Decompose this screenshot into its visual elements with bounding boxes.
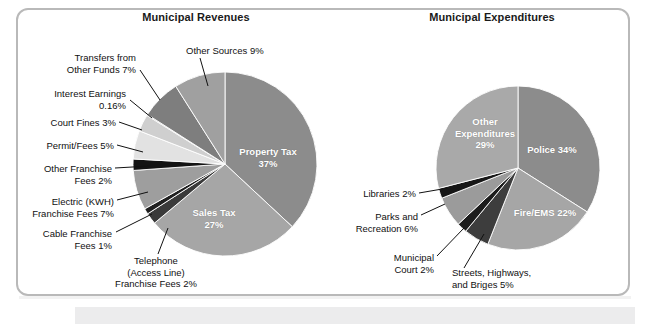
pie-callout-label: Transfers from Other Funds 7%: [18, 52, 136, 75]
pie-callout-label: Cable Franchise Fees 1%: [4, 228, 112, 251]
expenditures-pie: [436, 86, 600, 250]
pie-callout-label: Parks and Recreation 6%: [332, 211, 418, 234]
callout-leader-line: [140, 70, 160, 100]
pie-callout-label: Municipal Court 2%: [362, 252, 434, 275]
pie-callout-label: Electric (KWH) Franchise Fees 7%: [2, 196, 114, 219]
pie-callout-label: Permit/Fees 5%: [4, 140, 114, 152]
pie-callout-label: Telephone (Access Line) Franchise Fees 2…: [96, 255, 216, 290]
callout-leader-line: [437, 228, 464, 256]
callout-leader-line: [130, 100, 152, 118]
pie-callout-label: Other Franchise Fees 2%: [4, 163, 112, 186]
pie-callout-label: Court Fines 3%: [8, 117, 116, 129]
pie-callout-label: Other Sources 9%: [186, 45, 306, 57]
callout-leader-line: [116, 214, 152, 232]
callout-leader-line: [464, 234, 484, 268]
chart-page: Municipal Revenues Municipal Expenditure…: [0, 0, 649, 324]
pie-slice-label: Fire/EMS 22%: [485, 207, 605, 219]
pie-callout-label: Libraries 2%: [338, 188, 416, 200]
pie-callout-label: Streets, Highways, and Briges 5%: [452, 267, 574, 290]
pie-slice-label: Sales Tax 27%: [154, 207, 274, 230]
pie-slice-label: Property Tax 37%: [208, 146, 328, 169]
callout-leader-line: [421, 204, 445, 215]
pie-slice-label: Other Expenditures 29%: [425, 116, 545, 151]
pie-callout-label: Interest Earnings 0.16%: [14, 88, 126, 111]
callout-leader-line: [119, 122, 142, 130]
